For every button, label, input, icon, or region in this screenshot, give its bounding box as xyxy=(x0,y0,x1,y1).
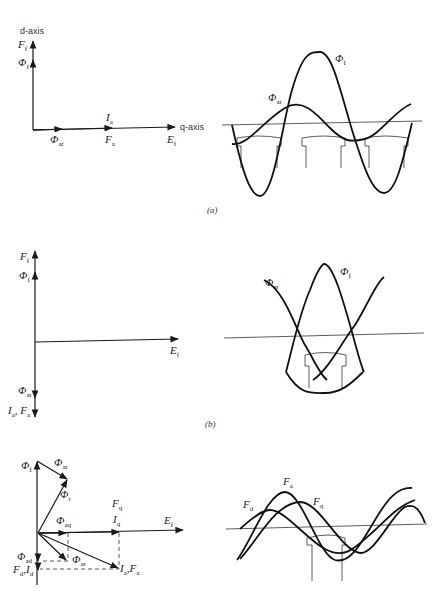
wave-label-Phi-f-b: Φf xyxy=(340,265,351,280)
label-Fa: Fa xyxy=(104,133,116,148)
stator-teeth xyxy=(237,136,408,168)
label-Ia-Fa-b: Ia, Fa xyxy=(7,404,31,419)
phi-ar-low-arrow xyxy=(38,533,66,560)
label-Iq: Iq xyxy=(112,513,121,528)
wave-label-Fd: Fd xyxy=(242,498,254,513)
label-Phi-ar-b: Φar xyxy=(18,384,32,399)
label-Ia: Ia xyxy=(105,111,114,126)
label-Phi-f-c: Φf xyxy=(21,459,32,474)
Ef-arrow-b xyxy=(35,339,178,342)
phi-ar-curve-right xyxy=(313,277,384,380)
label-Phi-f: Φf xyxy=(18,56,29,71)
caption-a: (a) xyxy=(207,205,218,215)
caption-b: (b) xyxy=(205,419,216,429)
panel-c-phasor-diagram: Φf Φar Φr Fq Iq Φaq Ef Φad Φar Fd,Id Ia,… xyxy=(12,456,183,585)
q-axis-label: q-axis xyxy=(180,122,205,132)
wave-label-Phi-ar-b: Φar xyxy=(265,276,279,291)
label-Ff: Ff xyxy=(17,38,28,53)
panel-b-waveform: Φf Φar xyxy=(224,264,424,393)
stator-tooth-b xyxy=(305,353,346,389)
label-Ef-c: Ef xyxy=(163,514,174,529)
panel-a-phasor-diagram: d-axis Ff Φf q-axis Ia Φar Fa Ef xyxy=(17,26,205,148)
airgap-reference-line-b xyxy=(224,333,424,338)
figure-canvas: d-axis Ff Φf q-axis Ia Φar Fa Ef Φf Φar … xyxy=(0,0,439,591)
label-Ef: Ef xyxy=(166,133,177,148)
label-Phi-ar-top: Φar xyxy=(54,456,68,471)
label-Phi-ar: Φar xyxy=(50,133,64,148)
label-Phi-ar-low: Φar xyxy=(72,553,86,568)
panel-a-waveform: Φf Φar xyxy=(222,52,422,196)
label-Ef-b: Ef xyxy=(169,344,180,359)
phi-f-curve-lower xyxy=(286,372,363,393)
label-Phi-r: Φr xyxy=(60,488,71,503)
label-Ia-Fa-c: Ia,Fa xyxy=(119,562,140,577)
wave-label-Phi-f: Φf xyxy=(335,52,346,67)
panel-b-phasor-diagram: Ff Φf Ef Φar Ia, Fa xyxy=(7,250,180,419)
phi-f-curve-upper xyxy=(286,264,364,372)
label-Phi-f-b: Φf xyxy=(19,269,30,284)
airgap-reference-line xyxy=(222,121,422,125)
wave-label-Fa: Fa xyxy=(282,475,294,490)
label-Fd-Id: Fd,Id xyxy=(12,563,34,578)
panel-c-waveform: Fa Fd Fq xyxy=(226,475,427,581)
phi-ar-curve-left xyxy=(264,280,327,380)
stator-tooth-c xyxy=(307,535,345,581)
wave-label-Phi-ar: Φar xyxy=(268,91,282,106)
d-axis-label: d-axis xyxy=(20,26,45,36)
projection-phi-ar xyxy=(40,533,68,561)
label-Phi-aq: Φaq xyxy=(56,514,71,529)
label-Ff-b: Ff xyxy=(19,250,30,265)
label-Fq: Fq xyxy=(111,497,123,512)
